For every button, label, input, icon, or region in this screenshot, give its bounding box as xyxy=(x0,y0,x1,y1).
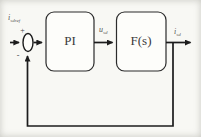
transfer-function-block-label: F(s) xyxy=(131,33,152,48)
pi-block-label: PI xyxy=(64,33,76,48)
block-diagram: PI F(s) isdref usd isd + - xyxy=(0,0,201,137)
summing-junction xyxy=(23,34,33,52)
input-signal-subscript: sdref xyxy=(10,18,20,23)
output-signal-subscript: sd xyxy=(176,32,181,37)
control-signal-label: usd xyxy=(99,25,108,35)
minus-sign: - xyxy=(17,51,20,60)
control-signal-subscript: sd xyxy=(103,30,108,35)
input-signal-label: isdref xyxy=(8,13,21,23)
plus-sign: + xyxy=(20,26,25,35)
output-signal-label: isd xyxy=(174,27,181,37)
block-diagram-svg: PI F(s) isdref usd isd + - xyxy=(0,0,201,137)
